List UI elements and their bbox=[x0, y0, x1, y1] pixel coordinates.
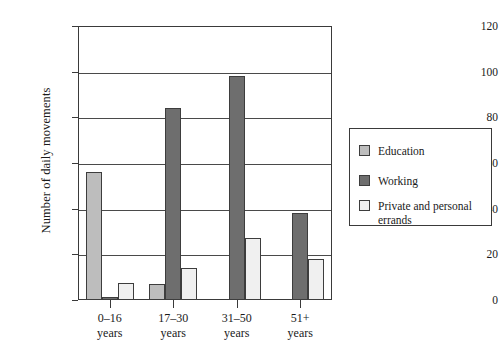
legend-item[interactable]: Education bbox=[359, 144, 425, 158]
gridline bbox=[79, 73, 331, 74]
plot-area bbox=[78, 26, 332, 300]
y-tick-label: 120 bbox=[443, 20, 503, 32]
bar-chart: Number of daily movements 02040608010012… bbox=[0, 0, 503, 355]
legend-item[interactable]: Working bbox=[359, 174, 418, 188]
legend: EducationWorkingPrivate and personal err… bbox=[349, 128, 492, 226]
x-tick-mark bbox=[110, 300, 111, 308]
y-tick-mark bbox=[72, 72, 78, 73]
x-group-label: 51+years bbox=[255, 311, 345, 342]
legend-swatch-icon bbox=[359, 175, 370, 186]
x-tick-mark bbox=[300, 300, 301, 308]
x-tick-mark bbox=[173, 300, 174, 308]
x-group-label-range: 31–50 bbox=[222, 311, 252, 325]
y-tick-mark bbox=[72, 300, 78, 301]
gridline bbox=[79, 118, 331, 119]
gridline bbox=[79, 210, 331, 211]
y-tick-mark bbox=[72, 117, 78, 118]
y-tick-mark bbox=[72, 254, 78, 255]
legend-item[interactable]: Private and personal errands bbox=[359, 199, 472, 228]
x-group-label-range: 17–30 bbox=[158, 311, 188, 325]
y-tick-label: 80 bbox=[443, 111, 503, 123]
y-tick-mark bbox=[72, 163, 78, 164]
y-tick-mark bbox=[72, 26, 78, 27]
legend-label: Education bbox=[378, 144, 425, 158]
y-tick-label: 0 bbox=[443, 294, 503, 306]
x-group-label-range: 51+ bbox=[291, 311, 310, 325]
x-group-label-range: 0–16 bbox=[98, 311, 122, 325]
x-tick-mark bbox=[237, 300, 238, 308]
legend-swatch-icon bbox=[359, 145, 370, 156]
legend-label: Working bbox=[378, 174, 418, 188]
legend-label: Private and personal errands bbox=[378, 199, 472, 228]
y-axis-title: Number of daily movements bbox=[39, 36, 54, 286]
gridline bbox=[79, 255, 331, 256]
legend-swatch-icon bbox=[359, 200, 370, 211]
y-tick-label: 100 bbox=[443, 66, 503, 78]
x-group-label-unit: years bbox=[255, 326, 345, 341]
gridline bbox=[79, 164, 331, 165]
y-tick-label: 20 bbox=[443, 248, 503, 260]
y-tick-mark bbox=[72, 209, 78, 210]
